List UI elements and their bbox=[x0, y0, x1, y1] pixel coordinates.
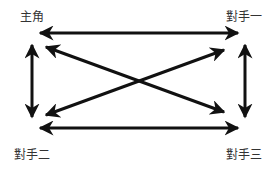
arrows-layer bbox=[0, 0, 280, 169]
arrow-opponent1-opponent2 bbox=[46, 50, 224, 115]
arrow-protagonist-opponent3 bbox=[46, 47, 224, 112]
